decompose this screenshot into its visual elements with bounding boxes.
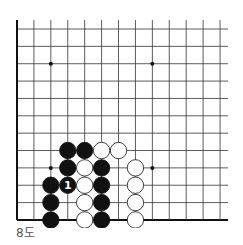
black-stone (76, 142, 92, 158)
black-stone (60, 160, 76, 176)
black-stone (93, 194, 109, 210)
white-stone (76, 160, 92, 176)
black-stone (93, 212, 109, 228)
move-number: 1 (64, 179, 72, 192)
black-stone: 1 (60, 177, 76, 193)
diagram-caption: 8도 (16, 226, 35, 240)
black-stone (60, 142, 76, 158)
white-stone (127, 194, 143, 210)
go-board: 1 (0, 0, 243, 228)
white-stone (76, 177, 92, 193)
white-stone (127, 160, 143, 176)
black-stone (43, 194, 59, 210)
star-point (49, 62, 53, 66)
black-stone (93, 177, 109, 193)
white-stone (76, 194, 92, 210)
white-stone (127, 212, 143, 228)
white-stone (127, 177, 143, 193)
white-stone (93, 142, 109, 158)
black-stone (43, 177, 59, 193)
star-point (150, 166, 154, 170)
white-stone (110, 142, 126, 158)
stones-layer: 1 (43, 142, 144, 228)
star-point (49, 166, 53, 170)
white-stone (76, 212, 92, 228)
black-stone (93, 160, 109, 176)
black-stone (43, 212, 59, 228)
star-point (150, 62, 154, 66)
